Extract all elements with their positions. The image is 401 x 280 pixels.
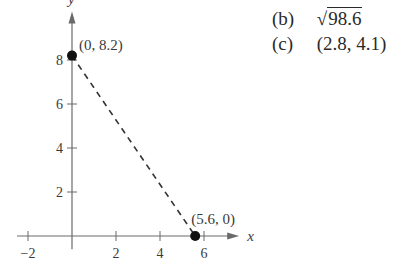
x-axis-label: x: [246, 228, 254, 244]
data-point-label: (5.6, 0): [191, 211, 235, 228]
dashed-segment: [72, 56, 195, 236]
answer-b-label: (b): [272, 6, 312, 31]
x-tick-label: 4: [157, 246, 164, 261]
sqrt-expression: √98.6: [317, 6, 363, 31]
y-axis-label: y: [66, 0, 75, 7]
y-tick-label: 6: [56, 97, 63, 112]
data-point: [190, 231, 200, 241]
y-tick-label: 8: [56, 53, 63, 68]
y-tick-label: 4: [56, 141, 63, 156]
answer-b: (b) √98.6: [272, 6, 386, 31]
answer-b-value: 98.6: [327, 7, 362, 29]
answer-c-value: (2.8, 4.1): [317, 33, 387, 54]
x-tick-label: 6: [201, 246, 208, 261]
x-tick-label: −2: [21, 246, 36, 261]
x-axis-arrow-icon: [227, 233, 239, 240]
y-axis-arrow-icon: [69, 12, 76, 24]
y-tick-label: 2: [56, 185, 63, 200]
radical-sign-icon: √: [317, 8, 327, 29]
data-point-label: (0, 8.2): [79, 37, 123, 54]
answer-c-label: (c): [272, 31, 312, 56]
answer-c: (c) (2.8, 4.1): [272, 31, 386, 56]
data-point: [67, 51, 77, 61]
answers-list: (b) √98.6 (c) (2.8, 4.1): [272, 6, 386, 56]
x-tick-label: 2: [113, 246, 120, 261]
